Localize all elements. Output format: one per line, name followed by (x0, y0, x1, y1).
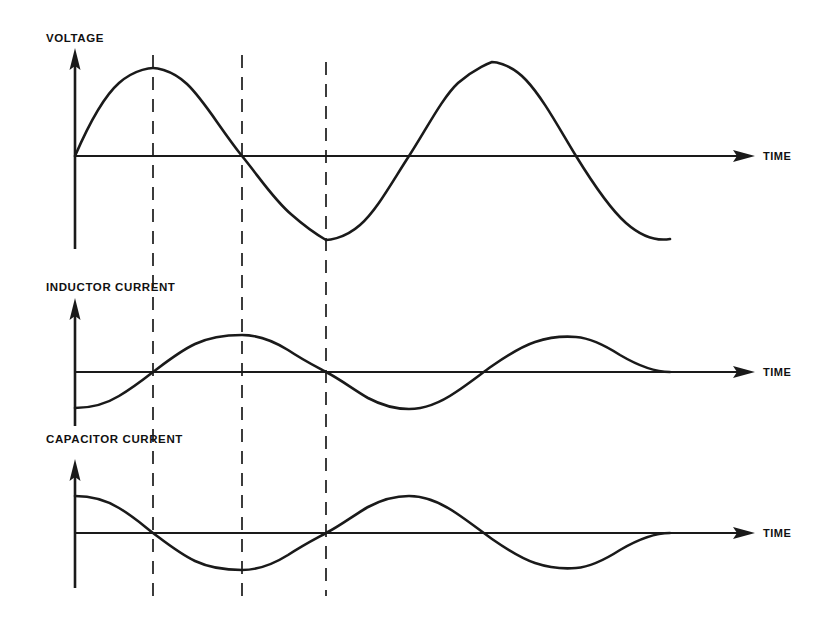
panel-inductor-current: INDUCTOR CURRENT TIME (46, 281, 791, 426)
panel-voltage: VOLTAGE TIME (46, 32, 791, 249)
voltage-waveform (75, 62, 670, 240)
phase-marker-lines (153, 55, 326, 596)
panel-capacitor-current: CAPACITOR CURRENT TIME (46, 433, 791, 588)
capacitor-current-axis-label: CAPACITOR CURRENT (46, 433, 183, 445)
inductor-time-label: TIME (763, 366, 791, 378)
phase-relationship-figure: VOLTAGE TIME INDUCTOR CURRENT TIME CAPAC… (0, 0, 816, 627)
inductor-current-axis-label: INDUCTOR CURRENT (46, 281, 176, 293)
capacitor-time-label: TIME (763, 527, 791, 539)
voltage-axis-label: VOLTAGE (46, 32, 104, 44)
voltage-time-label: TIME (763, 150, 791, 162)
waveform-diagram: VOLTAGE TIME INDUCTOR CURRENT TIME CAPAC… (0, 0, 816, 627)
